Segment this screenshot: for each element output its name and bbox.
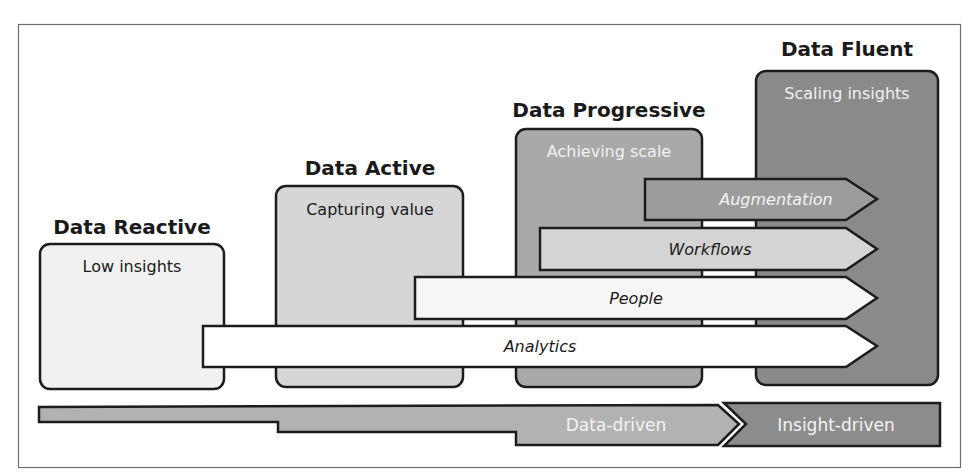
arrow-label-people: People xyxy=(609,289,663,308)
stage-title-active: Data Active xyxy=(305,156,435,180)
arrow-label-analytics: Analytics xyxy=(503,337,577,356)
stage-subtitle-fluent: Scaling insights xyxy=(784,84,909,103)
stage-subtitle-reactive: Low insights xyxy=(83,257,182,276)
stage-title-reactive: Data Reactive xyxy=(53,215,210,239)
arrow-label-augmentation: Augmentation xyxy=(718,190,833,209)
data-maturity-diagram: Data Reactive Low insights Data Active C… xyxy=(0,0,972,475)
arrow-label-workflows: Workflows xyxy=(669,240,752,259)
arrow-analytics: Analytics xyxy=(203,326,877,367)
stage-title-fluent: Data Fluent xyxy=(781,37,914,61)
insight-driven-label: Insight-driven xyxy=(777,415,895,435)
stage-subtitle-progressive: Achieving scale xyxy=(547,142,671,161)
arrow-people: People xyxy=(415,277,877,319)
arrow-augmentation: Augmentation xyxy=(645,179,877,220)
arrow-workflows: Workflows xyxy=(540,228,877,270)
stage-title-progressive: Data Progressive xyxy=(512,98,705,122)
data-driven-label: Data-driven xyxy=(566,415,667,435)
stage-subtitle-active: Capturing value xyxy=(306,200,434,219)
